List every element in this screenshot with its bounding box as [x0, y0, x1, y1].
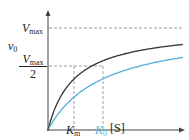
vmax-label: Vmax: [22, 22, 43, 34]
km-curve: [48, 44, 183, 130]
x-axis-arrow-icon: [179, 128, 185, 133]
half-vmax-label: Vmax 2: [19, 53, 47, 80]
y-axis-label: v0: [8, 40, 17, 52]
y-axis-arrow-icon: [46, 10, 51, 16]
x-axis-label: [S]: [110, 122, 125, 134]
k0-curve: [48, 57, 183, 130]
k0-label: K0: [95, 124, 107, 136]
km-label: Km: [66, 124, 80, 136]
